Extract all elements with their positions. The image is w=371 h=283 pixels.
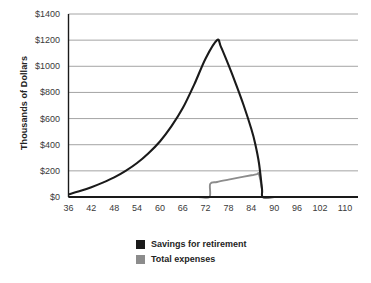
legend-swatch-icon — [136, 255, 145, 264]
x-tick-label: 96 — [292, 203, 302, 213]
x-tick-label: 90 — [269, 203, 279, 213]
legend-item[interactable]: Savings for retirement — [136, 238, 247, 251]
legend-swatch-icon — [136, 240, 145, 249]
x-tick-label: 72 — [201, 203, 211, 213]
x-tick-label: 84 — [246, 203, 256, 213]
x-tick-label: 110 — [338, 203, 352, 213]
legend-item-label: Savings for retirement — [151, 240, 247, 249]
x-tick-label: 60 — [155, 203, 165, 213]
retirement-savings-chart: Thousands of Dollars $0$200$400$600$800$… — [0, 0, 371, 283]
x-tick-label: 54 — [132, 203, 142, 213]
x-tick-label: 42 — [86, 203, 96, 213]
x-tick-label: 48 — [109, 203, 119, 213]
x-tick-label: 102 — [312, 203, 327, 213]
legend-item-label: Total expenses — [151, 255, 215, 264]
chart-legend: Savings for retirementTotal expenses — [136, 238, 247, 268]
legend-item[interactable]: Total expenses — [136, 253, 247, 266]
x-tick-label: 78 — [223, 203, 233, 213]
x-tick-label: 66 — [178, 203, 188, 213]
x-tick-label: 36 — [63, 203, 73, 213]
